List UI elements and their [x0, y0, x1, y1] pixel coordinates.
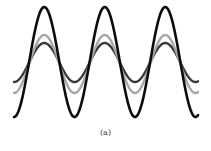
figure-caption: (a)	[0, 128, 211, 137]
small-dark-wave	[14, 43, 198, 82]
large-black-wave	[14, 7, 198, 117]
